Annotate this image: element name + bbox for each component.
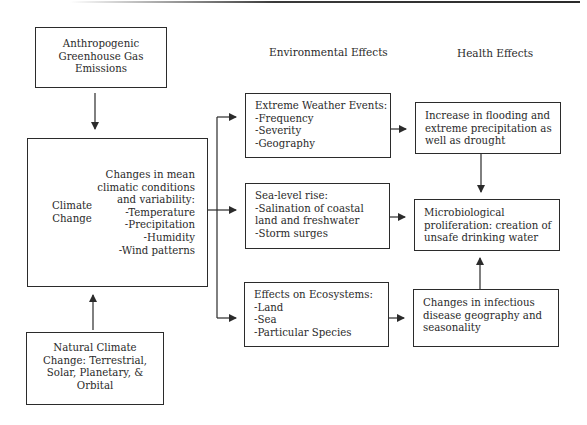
box-line: Emissions	[36, 63, 166, 76]
health-microbiological-box: Microbiological proliferation: creation …	[414, 199, 560, 251]
box-line: seasonality	[423, 322, 558, 335]
box-line: -Severity	[255, 125, 390, 138]
box-line: land and freshwater	[255, 215, 389, 228]
label-line: Change	[44, 213, 100, 226]
env-extreme-weather-box: Extreme Weather Events: -Frequency -Seve…	[245, 93, 391, 158]
box-line: Extreme Weather Events:	[255, 100, 390, 113]
detail-line: climatic conditions	[97, 182, 195, 195]
box-line: Solar, Planetary, &	[27, 367, 163, 380]
label-line: Climate	[44, 200, 100, 213]
climate-change-label: Climate Change	[44, 200, 100, 225]
box-line: -Sea	[254, 314, 388, 327]
heading-environmental-effects: Environmental Effects	[269, 46, 388, 58]
box-line: Microbiological	[424, 207, 559, 220]
box-line: unsafe drinking water	[424, 232, 559, 245]
detail-line: and variability:	[97, 194, 195, 207]
box-line: disease geography and	[423, 310, 558, 323]
detail-line: -Precipitation	[97, 219, 195, 232]
box-line: -Storm surges	[255, 228, 389, 241]
box-line: proliferation: creation of	[424, 220, 559, 233]
box-line: Change: Terrestrial,	[27, 355, 163, 368]
box-line: -Land	[254, 302, 388, 315]
box-line: Natural Climate	[27, 342, 163, 355]
box-line: well as drought	[425, 135, 560, 148]
heading-health-effects: Health Effects	[457, 47, 533, 59]
env-sea-level-rise-box: Sea-level rise: -Salination of coastal l…	[245, 183, 390, 249]
box-line: extreme precipitation as	[425, 123, 560, 136]
box-line: -Salination of coastal	[255, 203, 389, 216]
health-infectious-disease-box: Changes in infectious disease geography …	[413, 289, 559, 347]
box-line: -Geography	[255, 138, 390, 151]
natural-climate-change-box: Natural Climate Change: Terrestrial, Sol…	[26, 332, 164, 405]
detail-line: Changes in mean	[97, 169, 195, 182]
env-ecosystems-box: Effects on Ecosystems: -Land -Sea -Parti…	[244, 282, 389, 347]
box-line: Greenhouse Gas	[36, 51, 166, 64]
box-line: Effects on Ecosystems:	[254, 289, 388, 302]
climate-change-details: Changes in mean climatic conditions and …	[97, 169, 195, 257]
climate-change-box: Climate Change Changes in mean climatic …	[27, 138, 208, 287]
box-line: Orbital	[27, 380, 163, 393]
box-line: -Particular Species	[254, 327, 388, 340]
box-line: -Frequency	[255, 113, 390, 126]
box-line: Changes in infectious	[423, 297, 558, 310]
detail-line: -Humidity	[97, 232, 195, 245]
detail-line: -Temperature	[97, 207, 195, 220]
anthropogenic-emissions-box: Anthropogenic Greenhouse Gas Emissions	[35, 27, 167, 88]
box-line: Anthropogenic	[36, 38, 166, 51]
box-line: Increase in flooding and	[425, 110, 560, 123]
health-flooding-drought-box: Increase in flooding and extreme precipi…	[415, 102, 561, 154]
detail-line: -Wind patterns	[97, 245, 195, 258]
box-line: Sea-level rise:	[255, 190, 389, 203]
